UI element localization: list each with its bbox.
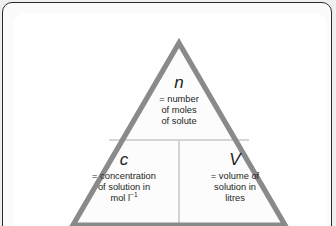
symbol-c-line-3: mol l−1	[71, 193, 177, 204]
symbol-c-line-1: = concentration	[71, 171, 177, 182]
symbol-n-line-3: of solute	[113, 116, 245, 127]
symbol-v-line-1: = volume of	[183, 171, 287, 182]
symbol-v-line-3: litres	[183, 193, 287, 204]
symbol-n-line-2: of moles	[113, 105, 245, 116]
triangle-cell-v: V = volume of solution in litres	[183, 150, 287, 204]
symbol-c-units-exponent: −1	[130, 191, 138, 198]
symbol-n-line-1: = number	[113, 94, 245, 105]
symbol-c: c	[71, 150, 177, 170]
triangle-cell-c: c = concentration of solution in mol l−1	[71, 150, 177, 204]
symbol-v: V	[183, 150, 287, 170]
triangle-cell-n: n = number of moles of solute	[113, 73, 245, 127]
page-outer-border: n = number of moles of solute c = concen…	[2, 2, 332, 226]
formula-triangle-diagram: n = number of moles of solute c = concen…	[65, 35, 293, 226]
screenshot-frame: n = number of moles of solute c = concen…	[0, 0, 336, 226]
figure-card: n = number of moles of solute c = concen…	[13, 13, 327, 226]
symbol-c-line-2: of solution in	[71, 182, 177, 193]
symbol-c-units: mol l	[110, 193, 130, 203]
symbol-n: n	[113, 73, 245, 93]
symbol-v-line-2: solution in	[183, 182, 287, 193]
